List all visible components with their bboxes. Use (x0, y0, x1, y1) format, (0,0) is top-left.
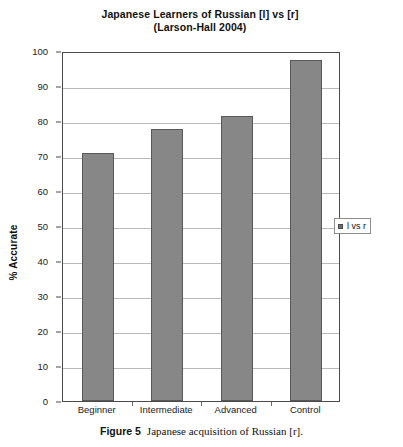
y-tick-mark (56, 332, 61, 333)
y-tick-label: 10 (37, 362, 48, 372)
y-tick-mark (56, 227, 61, 228)
chart-legend: l vs r (334, 218, 371, 234)
y-tick-label: 30 (37, 292, 48, 302)
bars-layer (63, 53, 339, 401)
y-tick-mark (56, 87, 61, 88)
x-tick-mark (132, 402, 133, 406)
y-tick-label: 0 (43, 397, 48, 407)
y-tick-label: 90 (37, 82, 48, 92)
figure-caption: Figure 5Japanese acquisition of Russian … (0, 424, 403, 438)
x-tick-label: Intermediate (132, 404, 202, 416)
figure-number: Figure 5 (100, 425, 141, 437)
y-tick-label: 50 (37, 222, 48, 232)
bar (221, 116, 253, 401)
bar (82, 153, 114, 402)
y-tick-label: 80 (37, 117, 48, 127)
y-tick-label: 60 (37, 187, 48, 197)
chart-title-line-1: Japanese Learners of Russian [l] vs [r] (101, 8, 298, 20)
figure-caption-text: Japanese acquisition of Russian [r]. (147, 425, 303, 437)
y-tick-mark (56, 297, 61, 298)
y-tick-label: 20 (37, 327, 48, 337)
legend-swatch-icon (338, 224, 343, 229)
y-tick-mark (56, 402, 61, 403)
y-axis-title: % Accurate (8, 193, 19, 313)
figure-container: Japanese Learners of Russian [l] vs [r] … (0, 0, 403, 447)
y-tick-mark (56, 367, 61, 368)
x-tick-mark (201, 402, 202, 406)
chart-title-line-2: (Larson-Hall 2004) (40, 21, 360, 34)
y-tick-label: 40 (37, 257, 48, 267)
y-tick-mark (56, 262, 61, 263)
y-tick-mark (56, 52, 61, 53)
x-tick-label: Advanced (201, 404, 271, 416)
y-axis: % Accurate 0102030405060708090100 (0, 52, 56, 402)
bar (151, 129, 183, 401)
plot-area (62, 52, 340, 402)
y-tick-label: 100 (32, 47, 48, 57)
bar (290, 60, 322, 401)
x-tick-mark (271, 402, 272, 406)
y-tick-mark (56, 122, 61, 123)
y-tick-label: 70 (37, 152, 48, 162)
y-tick-mark (56, 157, 61, 158)
x-tick-label: Control (271, 404, 341, 416)
legend-label: l vs r (347, 221, 366, 231)
x-tick-label: Beginner (62, 404, 132, 416)
x-axis: BeginnerIntermediateAdvancedControl (62, 404, 340, 420)
y-tick-mark (56, 192, 61, 193)
chart-title: Japanese Learners of Russian [l] vs [r] … (40, 8, 360, 34)
